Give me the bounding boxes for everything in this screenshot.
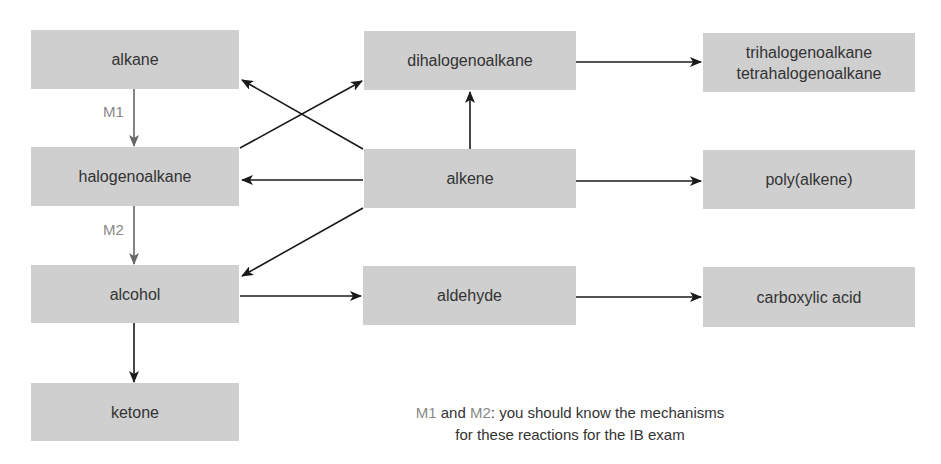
note-and: and — [437, 404, 470, 421]
node-alcohol: alcohol — [31, 265, 239, 323]
node-label: alkane — [111, 49, 158, 70]
arrow-alkene-to-alcohol — [242, 208, 363, 276]
note-line1: : you should know the mechanisms — [491, 404, 724, 421]
label-m2: M2 — [103, 221, 124, 238]
node-alkane: alkane — [31, 30, 239, 89]
node-tri-tetrahalogenoalkane: trihalogenoalkane tetrahalogenoalkane — [703, 33, 915, 92]
node-label: dihalogenoalkane — [407, 50, 532, 71]
node-polyalkene: poly(alkene) — [703, 150, 915, 209]
node-label: aldehyde — [437, 285, 502, 306]
node-label: ketone — [111, 402, 159, 423]
node-label: poly(alkene) — [765, 169, 852, 190]
node-dihalogenoalkane: dihalogenoalkane — [364, 31, 576, 90]
node-label: halogenoalkane — [79, 166, 192, 187]
node-ketone: ketone — [31, 383, 239, 441]
note-m1: M1 — [416, 404, 437, 421]
node-label: tetrahalogenoalkane — [736, 63, 881, 84]
node-halogenoalkane: halogenoalkane — [31, 147, 239, 206]
node-carboxylic-acid: carboxylic acid — [703, 267, 915, 327]
footnote: M1 and M2: you should know the mechanism… — [340, 402, 800, 446]
label-m1: M1 — [103, 103, 124, 120]
node-aldehyde: aldehyde — [363, 266, 576, 325]
node-label: trihalogenoalkane — [746, 42, 872, 63]
node-alkene: alkene — [364, 149, 576, 208]
node-label: carboxylic acid — [757, 287, 862, 308]
note-line2: for these reactions for the IB exam — [340, 424, 800, 446]
node-label: alcohol — [110, 284, 161, 305]
note-m2: M2 — [470, 404, 491, 421]
node-label: alkene — [446, 168, 493, 189]
